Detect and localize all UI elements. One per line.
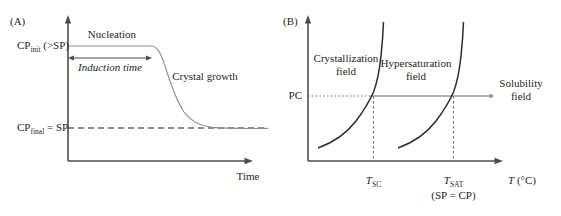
- induction-time-arrow-left: [68, 56, 74, 61]
- nucleation-annotation: Nucleation: [88, 28, 137, 40]
- supersolubility-curve: [318, 22, 384, 148]
- panel-b-label: (B): [283, 15, 298, 28]
- solubility-field-label-line1: Solubility: [499, 77, 543, 89]
- panel-a-x-axis-arrow: [245, 158, 254, 164]
- crystallization-field-label-line1: Crystallization: [314, 52, 379, 64]
- hypersaturation-field-label-line2: field: [406, 70, 427, 82]
- crystallization-figure: (A) CPinit (>SP) CPfinal = SP Nucleation…: [0, 0, 561, 216]
- panel-a-plot: (A) CPinit (>SP) CPfinal = SP Nucleation…: [0, 0, 280, 216]
- pc-label: PC: [289, 89, 302, 101]
- cp-final-label: CPfinal = SP: [17, 121, 68, 136]
- panel-a-label: (A): [10, 15, 26, 28]
- crystallization-field-label-line2: field: [336, 65, 357, 77]
- induction-time-arrow-right: [146, 56, 152, 61]
- panel-b-plot: (B) PC Crystallization field Hypersatura…: [280, 0, 561, 216]
- pc-isoline-endpoint-dot: [489, 94, 493, 98]
- tsat-note-label: (SP = CP): [431, 189, 476, 202]
- panel-a-y-axis-arrow: [65, 15, 71, 24]
- panel-b-x-axis-label: T (°C): [508, 174, 536, 187]
- crystal-growth-annotation: Crystal growth: [172, 70, 238, 82]
- cp-init-label: CPinit (>SP): [17, 39, 69, 54]
- hypersaturation-field-label-line1: Hypersaturation: [381, 57, 452, 69]
- panel-b-y-axis-arrow: [305, 15, 311, 24]
- solubility-curve: [398, 22, 464, 148]
- tsc-tick-label: TSC: [366, 174, 381, 189]
- panel-a-x-axis-label: Time: [237, 170, 260, 182]
- panel-b-x-axis-arrow: [495, 158, 504, 164]
- induction-time-annotation: Induction time: [77, 61, 142, 73]
- tsat-tick-label: TSAT: [444, 174, 464, 189]
- crystal-growth-curve: [152, 46, 268, 128]
- solubility-field-label-line2: field: [511, 90, 532, 102]
